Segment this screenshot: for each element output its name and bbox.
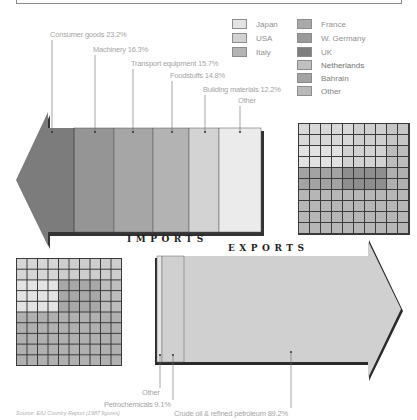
imports-arrow [16,112,264,249]
exports-title: EXPORTS [228,243,308,253]
imports-title: IMPORTS [127,234,208,244]
exports-label-other: Other [142,388,160,397]
imports-label-machinery: Machinery 16.3% [93,45,148,54]
imports-label-other: Other [238,96,256,105]
exports-arrow [155,240,403,381]
exports-label-crude-oil: Crude oil & refined petroleum 89.2% [174,409,288,418]
imports-label-building-materials: Building materials 12.2% [203,85,281,94]
imports-label-foodstuffs: Foodstuffs 14.8% [170,71,225,80]
imports-label-transport-equipment: Transport equipment 15.7% [131,59,218,68]
imports-origin-grid [298,123,410,235]
imports-label-consumer-goods: Consumer goods 23.2% [50,30,126,39]
exports-destination-grid [16,258,122,366]
exports-label-petrochemicals: Petrochemicals 9.1% [104,400,171,409]
source-note: Source: EIU Country Report (1987 figures… [16,410,120,416]
